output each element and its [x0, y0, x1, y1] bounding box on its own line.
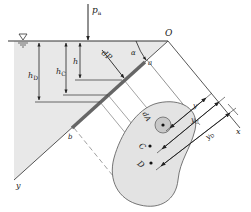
hydrostatic-diagram: pa y x O α a b dP h hC hD dA C D y [0, 0, 251, 212]
origin-label: O [165, 28, 173, 38]
pressure-center-point [149, 161, 152, 164]
angle-label: α [131, 49, 136, 57]
centroid-point [148, 144, 151, 147]
point-b-label: b [68, 133, 73, 141]
dA-point [161, 123, 164, 126]
yC-dimension-label: yC [190, 116, 199, 125]
h-label: h [73, 57, 78, 66]
projection-line-b [74, 128, 118, 182]
x-axis-label: x [236, 127, 241, 136]
atm-pressure-label: pa [92, 5, 102, 16]
y-axis-label: y [15, 181, 21, 190]
